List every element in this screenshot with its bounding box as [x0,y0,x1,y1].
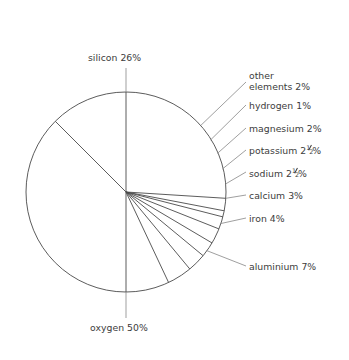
pie-label-oxygen: oxygen 50% [90,322,148,333]
fraction-denominator: 2 [309,146,313,157]
slice-divider-potassium-end [126,192,212,243]
fraction-one-half-potassium: 12 [306,145,312,154]
pie-label-potassium: potassium 212% [249,145,321,156]
leader-line-potassium [222,150,246,169]
pie-label-magnesium: magnesium 2% [249,123,322,134]
pie-label-silicon: silicon 26% [88,52,141,63]
pie-slices [26,92,226,292]
pie-label-other-elements-line2: elements 2% [249,81,310,92]
pie-label-aluminium: aluminium 7% [249,261,316,272]
pie-chart-figure: silicon 26% otherelements 2% hydrogen 1%… [0,0,349,360]
leader-line-aluminium [207,251,247,267]
leader-line-iron [221,218,246,224]
leader-line-other-elements [201,82,246,126]
pie-label-calcium: calcium 3% [249,190,303,201]
pie-label-iron: iron 4% [249,213,285,224]
fraction-denominator: 2 [295,169,299,180]
slice-divider-calcium-end [126,192,190,269]
leader-line-hydrogen [211,105,247,140]
leader-line-magnesium [217,128,246,154]
slice-divider-magnesium-end [126,192,219,229]
pie-label-hydrogen: hydrogen 1% [249,100,311,111]
pie-label-other-elements-line1: other [249,70,274,81]
pie-label-sodium: sodium 212% [249,168,307,179]
slice-divider-oxygen-silicon [55,121,126,192]
pie-label-sodium-prefix: sodium 2 [249,168,292,179]
pie-label-other-elements: otherelements 2% [249,70,345,92]
fraction-one-half-sodium: 12 [292,168,298,177]
pie-label-potassium-prefix: potassium 2 [249,145,306,156]
pie-label-sodium-suffix: % [298,168,307,179]
slice-divider-iron-end [126,192,169,283]
leader-line-sodium [226,172,247,184]
leader-line-calcium [226,195,246,198]
pie-label-potassium-suffix: % [312,145,321,156]
